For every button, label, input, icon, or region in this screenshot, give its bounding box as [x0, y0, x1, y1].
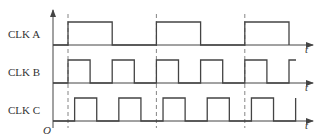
signal-clk-a: CLK At [8, 22, 313, 55]
timing-diagram-canvas: CLK AtCLK BtCLK Ct O [0, 0, 324, 140]
waveform [53, 22, 289, 45]
signal-clk-c: CLK Ct [8, 98, 313, 131]
signal-label: CLK A [8, 28, 40, 40]
signal-label: CLK C [8, 104, 40, 116]
signal-clk-b: CLK Bt [8, 60, 313, 93]
waveform [53, 60, 296, 83]
signal-label: CLK B [8, 66, 40, 78]
waveform [53, 98, 296, 121]
origin-label: O [43, 124, 51, 136]
timing-diagram: CLK AtCLK BtCLK Ct O [0, 0, 324, 140]
